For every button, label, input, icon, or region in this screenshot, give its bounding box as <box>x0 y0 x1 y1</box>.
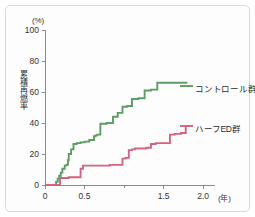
legend-label-halfed: ハーフED群 <box>195 122 241 134</box>
legend-label-control: コントロール群 <box>195 82 255 94</box>
series-line-control <box>45 83 187 185</box>
plot-area <box>0 0 255 217</box>
chart-figure: (%) (年) 累積再燃率 020406080100 00.51.52.0 コン… <box>0 0 255 217</box>
series-line-halfed <box>45 126 189 185</box>
